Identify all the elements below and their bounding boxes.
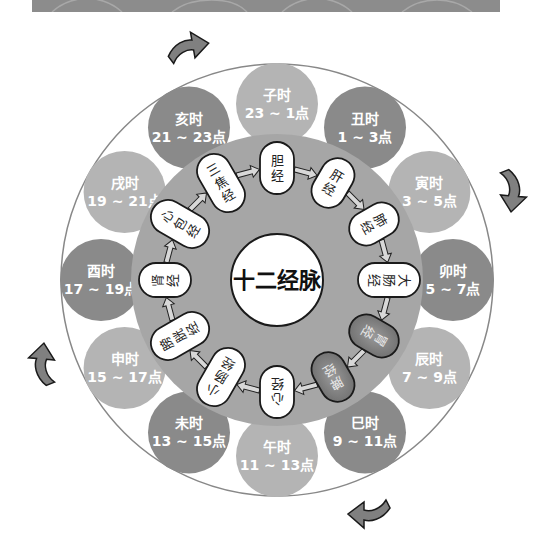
hour-name: 子时	[263, 87, 291, 103]
hour-name: 亥时	[175, 111, 203, 127]
meridian-label: 胆经	[271, 153, 284, 183]
hour-circle-bg	[236, 63, 318, 145]
hour-name: 辰时	[415, 351, 443, 367]
hour-circle: 子时23 ~ 1点	[236, 63, 318, 145]
rotation-arrow-icon	[26, 342, 58, 386]
meridian-label: 心经	[271, 377, 284, 407]
meridian-pill: 大肠经	[358, 263, 420, 297]
meridian-pill: 肾经	[139, 263, 191, 297]
hour-circle: 酉时17 ~ 19点	[60, 239, 142, 321]
rotation-arrow-icon	[348, 500, 390, 528]
hour-range: 21 ~ 23点	[152, 129, 226, 145]
hour-range: 1 ~ 3点	[338, 129, 393, 145]
meridian-pill: 心经	[260, 366, 294, 418]
hour-range: 11 ~ 13点	[240, 457, 314, 473]
hour-name: 卯时	[439, 263, 467, 279]
meridian-pill: 胆经	[260, 142, 294, 194]
twelve-meridians-diagram: 子时23 ~ 1点丑时1 ~ 3点寅时3 ~ 5点卯时5 ~ 7点辰时7 ~ 9…	[0, 0, 555, 559]
hour-range: 17 ~ 19点	[64, 281, 138, 297]
rotation-arrow-icon	[165, 29, 211, 64]
hour-range: 13 ~ 15点	[152, 433, 226, 449]
meridian-label: 大肠经	[367, 274, 412, 287]
hour-range: 3 ~ 5点	[402, 193, 457, 209]
meridian-label: 肾经	[150, 274, 180, 287]
hour-circle-bg	[60, 239, 142, 321]
hour-name: 戌时	[111, 175, 139, 191]
diagram-title: 十二经脉	[233, 268, 322, 293]
hour-range: 23 ~ 1点	[245, 105, 310, 121]
hour-range: 19 ~ 21点	[87, 193, 161, 209]
hour-range: 7 ~ 9点	[402, 369, 457, 385]
hour-range: 9 ~ 11点	[333, 433, 398, 449]
hour-circle-bg	[236, 415, 318, 497]
rotation-arrow-icon	[497, 169, 529, 213]
hour-circle: 午时11 ~ 13点	[236, 415, 318, 497]
hour-name: 巳时	[351, 415, 379, 431]
hour-circle-bg	[412, 239, 494, 321]
hour-name: 丑时	[351, 111, 379, 127]
hour-name: 未时	[175, 415, 203, 431]
hour-range: 5 ~ 7点	[426, 281, 481, 297]
hour-name: 午时	[263, 439, 291, 455]
hour-range: 15 ~ 17点	[87, 369, 161, 385]
center-circle: 十二经脉	[231, 234, 323, 326]
hour-name: 申时	[111, 351, 139, 367]
hour-name: 酉时	[87, 263, 115, 279]
hour-circle: 卯时5 ~ 7点	[412, 239, 494, 321]
hour-name: 寅时	[415, 175, 443, 191]
